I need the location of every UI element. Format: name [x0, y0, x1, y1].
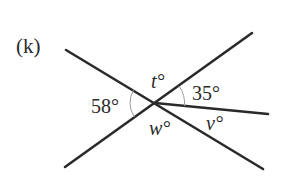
- angle-label-58: 58°: [91, 95, 119, 117]
- angle-label-t: t°: [151, 70, 165, 92]
- angle-arc-35: [179, 86, 185, 106]
- angle-arc-58: [130, 90, 134, 117]
- angle-diagram: (k) 58° t° 35° w° v°: [0, 0, 283, 190]
- angle-label-v: v°: [206, 112, 223, 134]
- angle-label-w: w°: [149, 117, 170, 139]
- part-label: (k): [16, 34, 41, 58]
- angle-label-35: 35°: [192, 82, 220, 104]
